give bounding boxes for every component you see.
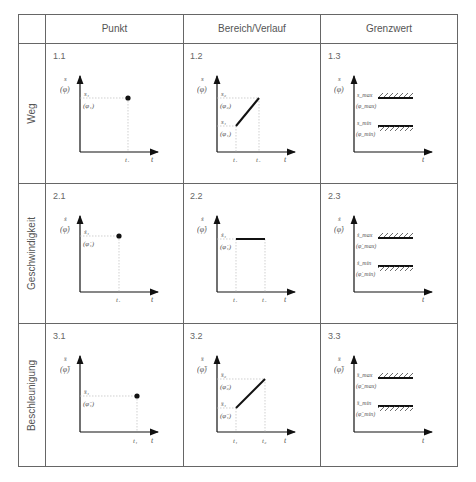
cell-label-2-1: 2.1 bbox=[53, 191, 66, 201]
svg-text:(φ₂): (φ₂) bbox=[220, 102, 232, 110]
svg-text:s_max: s_max bbox=[357, 92, 373, 98]
cell-label-3-2: 3.2 bbox=[190, 331, 203, 341]
cell-label-1-1: 1.1 bbox=[53, 51, 66, 61]
svg-text:(φ_min): (φ_min) bbox=[356, 131, 375, 138]
svg-text:t: t bbox=[422, 295, 425, 302]
svg-text:t: t bbox=[151, 436, 154, 444]
cell-label-2-2: 2.2 bbox=[190, 191, 203, 201]
cell-label-3-3: 3.3 bbox=[328, 331, 341, 341]
svg-text:t₁: t₁ bbox=[233, 156, 237, 162]
svg-text:s_min: s_min bbox=[357, 120, 371, 126]
svg-text:(φ̇₁): (φ̇₁) bbox=[83, 240, 95, 248]
svg-text:(φ̇₁): (φ̇₁) bbox=[220, 243, 232, 251]
cell-label-1-2: 1.2 bbox=[190, 51, 203, 61]
svg-text:t: t bbox=[284, 295, 287, 302]
svg-text:ṡ_max: ṡ_max bbox=[357, 232, 373, 238]
svg-text:s̈₁: s̈₁ bbox=[84, 388, 89, 396]
svg-text:t: t bbox=[284, 155, 287, 162]
svg-text:(φ̈): (φ̈) bbox=[60, 365, 70, 374]
cell-label-1-3: 1.3 bbox=[328, 51, 341, 61]
svg-text:s̈: s̈ bbox=[64, 355, 67, 363]
svg-text:(φ̇): (φ̇) bbox=[334, 225, 344, 234]
svg-text:t: t bbox=[151, 155, 154, 162]
diagram-3-1-point: s̈ (φ̈) s̈₁ (φ̈₁) t₁ t bbox=[60, 352, 170, 444]
column-header-grenzwert: Grenzwert bbox=[321, 14, 457, 43]
svg-text:s̈_max: s̈_max bbox=[357, 372, 373, 378]
svg-text:t: t bbox=[284, 436, 287, 444]
svg-text:s: s bbox=[201, 75, 204, 83]
svg-text:(φ̇_min): (φ̇_min) bbox=[356, 271, 375, 278]
cell-label-3-1: 3.1 bbox=[53, 331, 66, 341]
diagram-3-3-limit: s̈ (φ̈) s̈_max (φ̈_max) s̈_min (φ̈_min) … bbox=[334, 352, 449, 444]
svg-text:t₂: t₂ bbox=[262, 296, 267, 302]
svg-text:t: t bbox=[422, 436, 425, 444]
svg-text:ṡ: ṡ bbox=[201, 215, 204, 223]
svg-text:ṡ: ṡ bbox=[338, 215, 341, 223]
svg-text:(φ̈₂): (φ̈₂) bbox=[220, 383, 232, 391]
svg-text:s̈: s̈ bbox=[338, 355, 341, 363]
svg-text:(φ₁): (φ₁) bbox=[83, 102, 95, 110]
cell-label-2-3: 2.3 bbox=[328, 191, 341, 201]
diagram-2-1-point: ṡ (φ̇) ṡ₁ (φ̇₁) t₁ t bbox=[60, 212, 170, 302]
diagram-1-1-point: s (φ) s₁ (φ₁) t₁ t bbox=[60, 72, 170, 162]
svg-text:ṡ: ṡ bbox=[64, 215, 67, 223]
svg-text:t₁: t₁ bbox=[233, 437, 237, 444]
svg-text:(φ̈_min): (φ̈_min) bbox=[356, 411, 375, 418]
svg-text:(φ): (φ) bbox=[197, 85, 207, 94]
row-header-geschwindigkeit: Geschwindigkeit bbox=[18, 184, 45, 323]
svg-text:s₁: s₁ bbox=[221, 118, 226, 126]
svg-text:(φ̈): (φ̈) bbox=[197, 365, 207, 374]
svg-text:s̈: s̈ bbox=[201, 355, 204, 363]
svg-text:ṡ_min: ṡ_min bbox=[357, 260, 371, 266]
svg-text:s̈₂: s̈₂ bbox=[221, 371, 227, 379]
svg-text:t: t bbox=[422, 155, 425, 162]
svg-text:(φ̇_max): (φ̇_max) bbox=[356, 243, 376, 250]
svg-text:s̈₁: s̈₁ bbox=[221, 400, 226, 408]
svg-text:(φ_max): (φ_max) bbox=[356, 103, 376, 110]
svg-text:(φ̇): (φ̇) bbox=[197, 225, 207, 234]
svg-text:s: s bbox=[338, 75, 341, 83]
motion-requirements-table: Punkt Bereich/Verlauf Grenzwert Weg Gesc… bbox=[0, 0, 476, 482]
svg-text:t: t bbox=[151, 295, 154, 302]
column-header-bereich-verlauf: Bereich/Verlauf bbox=[184, 14, 320, 43]
svg-text:(φ₁): (φ₁) bbox=[220, 130, 232, 138]
svg-text:(φ̈₁): (φ̈₁) bbox=[220, 412, 232, 420]
row-header-weg: Weg bbox=[18, 44, 45, 183]
diagram-1-3-limit: s (φ) s_max (φ_max) s_min (φ_min) t bbox=[334, 72, 449, 162]
svg-text:(φ): (φ) bbox=[60, 85, 70, 94]
diagram-2-2-range: ṡ (φ̇) ṡ₁ (φ̇₁) t₁ t₂ t bbox=[197, 212, 307, 302]
diagram-3-2-range: s̈ (φ̈) s̈₂ (φ̈₂) s̈₁ (φ̈₁) t₁ t₂ t bbox=[197, 352, 307, 444]
row-header-beschleunigung: Beschleunigung bbox=[18, 324, 45, 466]
svg-text:t₁: t₁ bbox=[116, 296, 120, 302]
svg-text:(φ̈_max): (φ̈_max) bbox=[356, 383, 376, 390]
svg-text:(φ): (φ) bbox=[334, 85, 344, 94]
svg-text:s₁: s₁ bbox=[84, 90, 89, 98]
svg-text:(φ̈₁): (φ̈₁) bbox=[83, 400, 95, 408]
svg-text:t₁: t₁ bbox=[133, 437, 137, 444]
svg-text:t₁: t₁ bbox=[125, 156, 129, 162]
svg-text:t₁: t₁ bbox=[233, 296, 237, 302]
svg-text:ṡ₁: ṡ₁ bbox=[84, 228, 89, 236]
diagram-1-2-range: s (φ) s₂ (φ₂) s₁ (φ₁) t₁ t₂ t bbox=[197, 72, 307, 162]
svg-text:t₂: t₂ bbox=[262, 437, 267, 444]
svg-text:t₂: t₂ bbox=[256, 156, 261, 162]
svg-text:(φ̇): (φ̇) bbox=[60, 225, 70, 234]
y-axis-label: s bbox=[64, 75, 67, 83]
diagram-2-3-limit: ṡ (φ̇) ṡ_max (φ̇_max) ṡ_min (φ̇_min) t bbox=[334, 212, 449, 302]
svg-text:(φ̈): (φ̈) bbox=[334, 365, 344, 374]
svg-text:s̈_min: s̈_min bbox=[357, 400, 371, 406]
svg-text:ṡ₁: ṡ₁ bbox=[221, 231, 226, 239]
column-header-punkt: Punkt bbox=[46, 14, 183, 43]
svg-text:s₂: s₂ bbox=[221, 90, 227, 98]
